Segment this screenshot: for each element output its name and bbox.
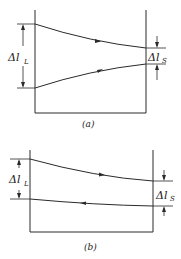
right-dimension-a: Δl S [146, 36, 167, 80]
delta-l-large-label: Δl [8, 173, 21, 186]
diagram-canvas: Δl L Δl S (a) [0, 0, 181, 259]
diagram-a: Δl L Δl S (a) [7, 10, 167, 129]
delta-l-small-label: Δl [155, 189, 168, 202]
upper-flow-curve-b [30, 159, 153, 181]
lower-flow-curve-b [30, 199, 153, 206]
delta-l-large-subscript: L [23, 180, 29, 188]
caption-b: (b) [84, 242, 97, 252]
lower-flow-curve-a [35, 64, 146, 88]
delta-l-small-subscript: S [162, 57, 167, 65]
container-box-b [30, 150, 153, 232]
delta-l-small-label: Δl [147, 51, 160, 64]
left-dimension-b: Δl L [8, 159, 30, 199]
diagram-b: Δl L Δl S (b) [8, 150, 175, 252]
arrow-left-icon [80, 202, 86, 206]
delta-l-large-label: Δl [7, 51, 20, 64]
delta-l-large-subscript: L [23, 58, 29, 66]
left-dimension-a: Δl L [7, 24, 35, 88]
container-box-a [35, 10, 146, 113]
caption-a: (a) [82, 119, 95, 129]
delta-l-small-subscript: S [170, 195, 175, 203]
right-dimension-b: Δl S [153, 170, 175, 216]
upper-flow-curve-a [35, 24, 146, 48]
arrow-right-icon [99, 173, 105, 177]
